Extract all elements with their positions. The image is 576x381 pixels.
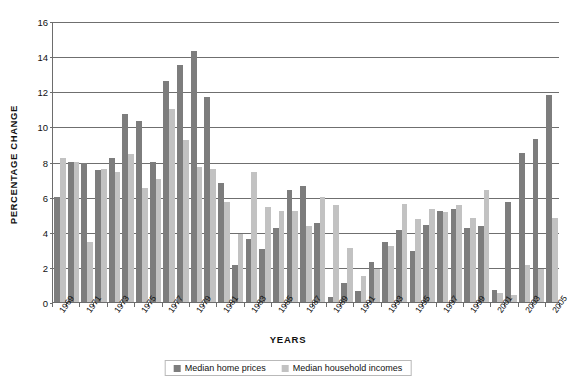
bar [456,205,462,302]
x-tick-mark [381,303,382,307]
bar [279,211,285,302]
bar-group [367,22,381,302]
y-tick-label: 6 [43,192,48,203]
x-tick-mark [518,303,519,307]
y-tick-label: 2 [43,262,48,273]
bar [484,190,490,302]
x-tick-mark [271,303,272,307]
bar-group [285,22,299,302]
bar [505,202,511,302]
bar [128,154,134,302]
bar-group [231,22,245,302]
bar [115,172,121,302]
bar-group [162,22,176,302]
bar-group [258,22,272,302]
x-tick-mark [545,303,546,307]
bar-group [299,22,313,302]
bar [142,188,148,302]
x-tick-mark [244,303,245,307]
x-tick-mark [408,303,409,307]
y-tick-label: 16 [37,17,48,28]
bar [470,218,476,302]
y-tick-label: 14 [37,52,48,63]
legend-label: Median household incomes [293,363,403,373]
bar-group [272,22,286,302]
x-tick-mark [52,303,53,307]
y-tick-label: 0 [43,298,48,309]
legend-swatch-icon [282,365,289,372]
bar-group [149,22,163,302]
bar [347,248,353,302]
bar-group [244,22,258,302]
x-tick-mark [299,303,300,307]
bar [224,202,230,302]
y-axis-title: PERCENTAGE CHANGE [2,0,24,330]
y-tick-label: 4 [43,227,48,238]
bar [388,246,394,302]
x-tick-mark [490,303,491,307]
x-tick-mark [216,303,217,307]
bar [156,179,162,302]
bar-group [408,22,422,302]
bar [265,207,271,302]
bar-group [203,22,217,302]
x-tick-mark [189,303,190,307]
bar [210,169,216,302]
bar-group [436,22,450,302]
x-tick-mark [79,303,80,307]
bar-group [135,22,149,302]
bar-group [422,22,436,302]
bar [60,158,66,302]
bar [525,265,531,302]
bar-group [94,22,108,302]
x-tick-mark [134,303,135,307]
y-tick-label: 12 [37,87,48,98]
bar-group [53,22,67,302]
bar [87,242,93,302]
legend-item[interactable]: Median home prices [174,363,266,373]
bar-group [80,22,94,302]
bar-group [108,22,122,302]
bar-group [381,22,395,302]
percentage-change-bar-chart: PERCENTAGE CHANGE 0246810121416 19691971… [0,0,576,381]
bar-group [121,22,135,302]
bar [415,219,421,302]
x-tick-mark [107,303,108,307]
bar-group [176,22,190,302]
bar [306,226,312,302]
bar-groups [53,22,559,302]
plot-area: 0246810121416 [52,22,559,303]
chart-legend: Median home pricesMedian household incom… [165,360,412,376]
y-tick-label: 10 [37,122,48,133]
bar-group [449,22,463,302]
bar [74,162,80,303]
x-tick-mark [326,303,327,307]
bar-group [326,22,340,302]
bar [333,205,339,302]
x-axis-title: YEARS [0,334,576,345]
bar-group [395,22,409,302]
bar [552,218,558,302]
bar-group [545,22,559,302]
bar [429,209,435,302]
bar-group [518,22,532,302]
bar-group [504,22,518,302]
bar-group [354,22,368,302]
x-tick-mark [162,303,163,307]
bar-group [217,22,231,302]
bar [169,109,175,302]
bar [292,211,298,302]
bar-group [477,22,491,302]
bar-group [190,22,204,302]
bar-group [67,22,81,302]
bar [251,172,257,302]
bar-group [463,22,477,302]
legend-label: Median home prices [185,363,266,373]
bar [197,167,203,302]
bar [101,169,107,302]
bar-group [313,22,327,302]
bar-group [340,22,354,302]
bar [402,204,408,302]
legend-item[interactable]: Median household incomes [282,363,403,373]
bar-group [491,22,505,302]
